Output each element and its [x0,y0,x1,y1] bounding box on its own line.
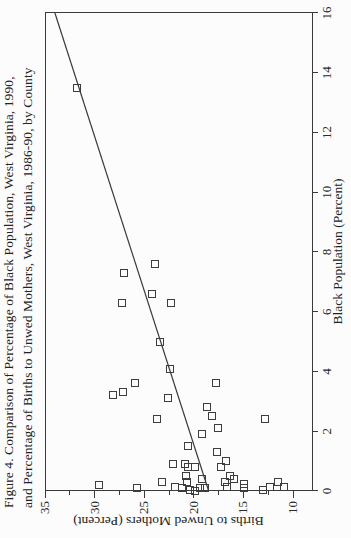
scatter-point [148,290,156,298]
x-axis-tick [312,72,318,73]
x-axis-tick [312,490,318,491]
scatter-point [153,415,161,423]
scatter-point [198,430,206,438]
scatter-point [158,478,166,486]
x-axis-tick [312,12,318,13]
scatter-point [240,484,248,492]
x-axis-tick [312,132,318,133]
y-axis-minor-tick [69,491,70,495]
scatter-point [214,424,222,432]
x-axis-tick [312,371,318,372]
scatter-point [261,415,269,423]
scatter-point [118,299,126,307]
scatter-point [133,484,141,492]
y-axis-tick [45,491,46,498]
y-axis-minor-tick [218,491,219,495]
scatter-point [191,463,199,471]
scatter-point [166,365,174,373]
scatter-point [178,484,186,492]
scatter-point [223,483,231,491]
scatter-point [73,84,81,92]
scatter-point [213,448,221,456]
scatter-point [208,412,216,420]
scatter-point [120,269,128,277]
x-axis-tick [312,431,318,432]
figure-title-line1: Figure 4. Comparison of Percentage of Bl… [0,3,18,508]
y-axis-minor-tick [268,491,269,495]
rotated-figure: Figure 4. Comparison of Percentage of Bl… [0,0,351,538]
scatter-point [280,483,288,491]
scatter-point [156,338,164,346]
scatter-point [201,484,209,492]
x-axis-tick [312,251,318,252]
scatter-point [167,299,175,307]
scatter-point [131,379,139,387]
scatter-point [230,475,238,483]
scatter-point [198,475,206,483]
scatter-point [169,460,177,468]
scatter-point [266,483,274,491]
y-axis-label: Births to Unwed Mothers (Percent) [49,512,289,529]
scanned-figure-page: Figure 4. Comparison of Percentage of Bl… [0,0,351,538]
x-axis-label: Black Population (Percent) [330,12,346,491]
scatter-point [151,260,159,268]
scatter-point [164,394,172,402]
scatter-point [95,481,103,489]
y-axis-tick [243,491,244,498]
y-axis-tick [293,491,294,498]
y-axis-tick [94,491,95,498]
scatter-point [109,391,117,399]
scatter-point [217,463,225,471]
y-axis-minor-tick [169,491,170,495]
scatter-point [184,442,192,450]
figure-title: Figure 4. Comparison of Percentage of Bl… [0,3,37,508]
scatter-point [119,388,127,396]
scatter-point [203,403,211,411]
y-axis-tick [144,491,145,498]
y-axis-minor-tick [119,491,120,495]
x-axis-tick [312,192,318,193]
figure-title-line2: and Percentage of Births to Unwed Mother… [18,3,37,508]
plot-frame [45,12,313,491]
x-axis-tick [312,311,318,312]
scatter-point [212,379,220,387]
